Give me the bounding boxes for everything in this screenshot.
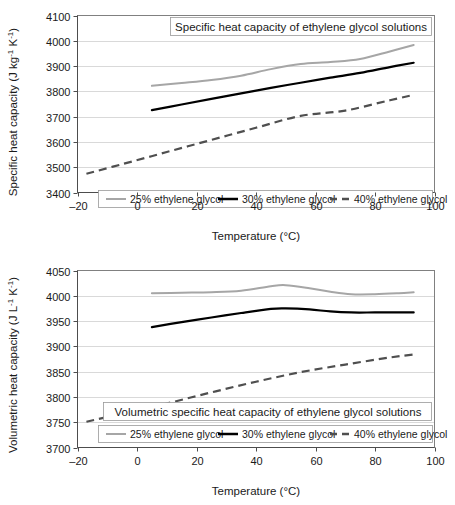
x-tick-label: 100: [426, 200, 444, 212]
y-tick-labels-top: 34003500360037003800390040004100: [46, 11, 77, 200]
x-tick-label: 80: [369, 200, 381, 212]
plot-area-border-top: [78, 16, 435, 193]
y-axis-title-top: Specific heat capacity (J kg-1 K-1): [6, 28, 19, 196]
x-tick-label: 100: [426, 455, 444, 467]
volumetric-heat-capacity-svg: Volumetric heat capacity (J L-1 K-1) 370…: [0, 250, 455, 505]
legend-label-40-bottom: 40% ethylene glycol: [354, 428, 447, 440]
y-tick-label: 3500: [46, 162, 70, 174]
y-tick-label: 3600: [46, 137, 70, 149]
x-tick-label: 40: [250, 455, 262, 467]
x-tick-label: 0: [134, 455, 140, 467]
x-axis-title-bottom: Temperature (°C): [212, 485, 300, 497]
y-tick-label: 3900: [46, 61, 70, 73]
legend-label-30-bottom: 30% ethylene glycol: [242, 428, 335, 440]
y-axis-title-bottom: Volumetric heat capacity (J L-1 K-1): [6, 277, 19, 453]
x-tick-label: 60: [310, 455, 322, 467]
series-line-30-percent-bottom: [152, 308, 414, 327]
x-tick-labels-bottom: –20020406080100: [69, 448, 444, 467]
legend-label-25-top: 25% ethylene glycol: [130, 193, 223, 205]
y-tick-label: 4000: [46, 291, 70, 303]
specific-heat-capacity-svg: Specific heat capacity (J kg-1 K-1) 3400…: [0, 0, 455, 250]
x-tick-label: 80: [369, 455, 381, 467]
y-tick-labels-bottom: 37003750380038503900395040004050: [46, 266, 77, 455]
figure-two-panel-chart: Specific heat capacity (J kg-1 K-1) 3400…: [0, 0, 455, 505]
series-line-40-percent-top: [86, 95, 413, 174]
chart-volumetric-heat-capacity: Volumetric heat capacity (J L-1 K-1) 370…: [0, 250, 455, 505]
y-tick-label: 3900: [46, 341, 70, 353]
legend-label-25-bottom: 25% ethylene glycol: [130, 428, 223, 440]
x-axis-title-top: Temperature (°C): [212, 230, 300, 242]
series-line-30-percent-top: [152, 63, 414, 110]
y-tick-label: 4100: [46, 11, 70, 23]
x-tick-label: 20: [191, 455, 203, 467]
y-tick-label: 3700: [46, 443, 70, 455]
x-tick-label: 20: [191, 200, 203, 212]
chart-specific-heat-capacity: Specific heat capacity (J kg-1 K-1) 3400…: [0, 0, 455, 250]
chart-title-top: Specific heat capacity of ethylene glyco…: [175, 21, 427, 33]
y-tick-label: 4050: [46, 266, 70, 278]
y-tick-label: 3950: [46, 316, 70, 328]
series-line-25-percent-top: [152, 45, 414, 86]
y-gridlines-top: [78, 42, 435, 168]
series-line-25-percent-bottom: [152, 285, 414, 294]
y-tick-label: 3800: [46, 86, 70, 98]
y-tick-label: 4000: [46, 36, 70, 48]
y-tick-label: 3850: [46, 367, 70, 379]
x-tick-label: 40: [250, 200, 262, 212]
x-tick-label: 0: [134, 200, 140, 212]
x-tick-label: –20: [69, 200, 87, 212]
y-tick-label: 3400: [46, 188, 70, 200]
y-tick-label: 3800: [46, 392, 70, 404]
x-tick-label: –20: [69, 455, 87, 467]
y-tick-label: 3750: [46, 417, 70, 429]
y-tick-label: 3700: [46, 112, 70, 124]
chart-title-bottom: Volumetric specific heat capacity of eth…: [115, 406, 422, 418]
x-tick-label: 60: [310, 200, 322, 212]
